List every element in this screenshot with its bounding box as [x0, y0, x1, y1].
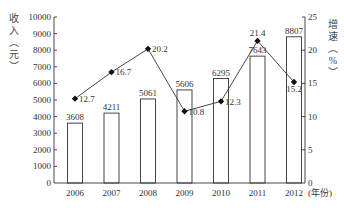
left-axis-title: 收入︵元︶ — [9, 12, 19, 72]
bar-2007 — [104, 113, 119, 183]
svg-text:︵: ︵ — [328, 43, 338, 54]
growth-label-2007: 16.7 — [116, 67, 132, 77]
svg-text:0: 0 — [47, 178, 52, 188]
svg-text:4000: 4000 — [33, 112, 52, 122]
bar-label-2008: 5061 — [139, 88, 157, 98]
svg-text:%: % — [329, 55, 337, 66]
svg-text:7000: 7000 — [33, 62, 52, 72]
bar-label-2011: 7643 — [249, 45, 268, 55]
left-y-axis: 0100020003000400050006000700080009000100… — [29, 12, 58, 188]
bar-label-2010: 6295 — [212, 68, 231, 78]
svg-text:︶: ︶ — [9, 61, 19, 72]
svg-text:︵: ︵ — [9, 37, 19, 48]
svg-text:0: 0 — [308, 178, 313, 188]
right-y-axis: 0510152025 — [302, 12, 318, 188]
x-tick-2008: 2008 — [139, 188, 158, 198]
svg-text:5000: 5000 — [33, 95, 52, 105]
bar-label-2009: 5606 — [176, 79, 195, 89]
svg-text:8000: 8000 — [33, 45, 52, 55]
x-tick-2010: 2010 — [212, 188, 231, 198]
bar-2011 — [250, 56, 265, 183]
svg-text:(年份): (年份) — [308, 187, 332, 198]
svg-text:2000: 2000 — [33, 145, 52, 155]
bar-label-2006: 3608 — [66, 112, 85, 122]
growth-label-2010: 12.3 — [225, 97, 241, 107]
diamond-marker-2006 — [72, 95, 78, 101]
x-axis: 2006200720082009201020112012(年份) — [54, 183, 332, 198]
right-axis-title: 增速︵%︶ — [328, 18, 338, 78]
svg-text:10: 10 — [308, 112, 318, 122]
x-tick-2011: 2011 — [249, 188, 267, 198]
svg-text:20: 20 — [308, 45, 318, 55]
bar-line-chart: 3608421150615606629576438807 12.716.720.… — [0, 0, 344, 208]
growth-label-2009: 10.8 — [189, 107, 205, 117]
growth-label-2011: 21.4 — [250, 28, 266, 38]
x-tick-2007: 2007 — [103, 188, 122, 198]
svg-text:15: 15 — [308, 78, 318, 88]
svg-text:︶: ︶ — [328, 67, 338, 78]
bar-2012 — [287, 37, 302, 183]
diamond-marker-2008 — [145, 46, 151, 52]
bar-2009 — [177, 90, 192, 183]
diamond-marker-2007 — [108, 69, 114, 75]
growth-label-2006: 12.7 — [79, 94, 95, 104]
svg-text:1000: 1000 — [33, 161, 52, 171]
svg-text:收: 收 — [9, 12, 19, 24]
growth-label-2008: 20.2 — [152, 44, 168, 54]
x-tick-2006: 2006 — [66, 188, 85, 198]
svg-text:9000: 9000 — [33, 29, 52, 39]
x-tick-2009: 2009 — [176, 188, 195, 198]
svg-text:入: 入 — [9, 25, 19, 36]
svg-text:10000: 10000 — [29, 12, 52, 22]
bar-2006 — [68, 123, 83, 183]
svg-text:增: 增 — [328, 18, 338, 30]
bar-label-2012: 8807 — [285, 26, 304, 36]
svg-text:速: 速 — [328, 31, 338, 42]
bar-label-2007: 4211 — [103, 102, 121, 112]
svg-text:5: 5 — [308, 145, 313, 155]
growth-label-2012: 15.2 — [286, 84, 302, 94]
svg-text:3000: 3000 — [33, 128, 52, 138]
x-tick-2012: 2012 — [285, 188, 303, 198]
svg-text:25: 25 — [308, 12, 318, 22]
svg-text:6000: 6000 — [33, 78, 52, 88]
bar-2010 — [214, 79, 229, 183]
svg-text:元: 元 — [9, 49, 19, 60]
bar-2008 — [141, 99, 156, 183]
